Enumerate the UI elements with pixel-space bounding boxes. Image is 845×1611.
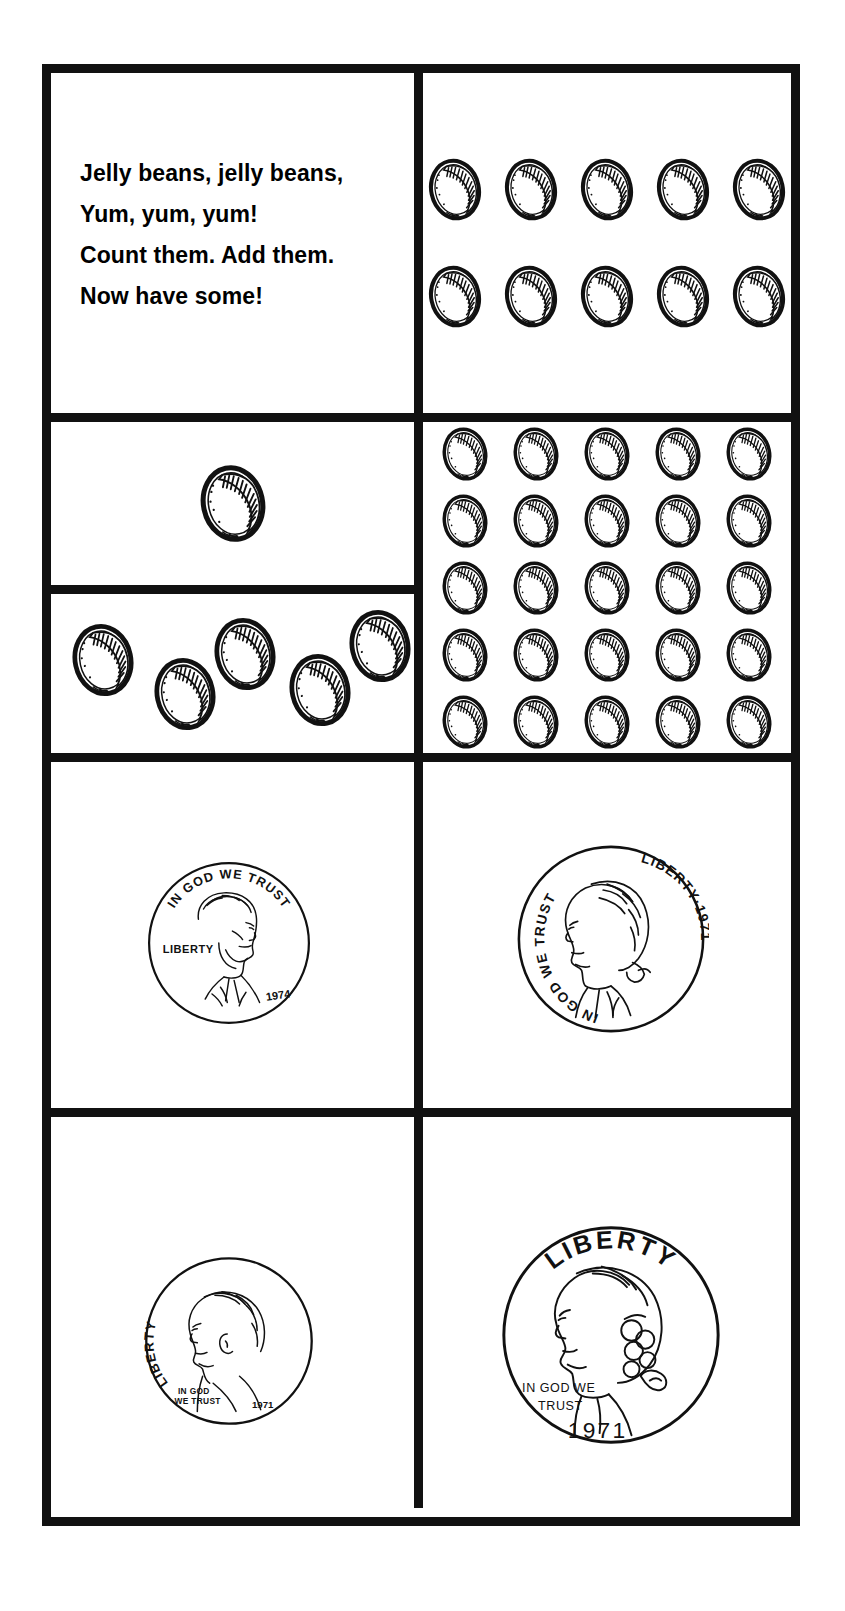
jelly-bean-row bbox=[440, 627, 774, 683]
poem-line-4: Now have some! bbox=[80, 276, 404, 317]
jelly-bean-icon bbox=[511, 694, 561, 750]
jelly-bean-row bbox=[426, 157, 788, 222]
nickel-coin: IN GOD WE TRUSTLIBERTY·1971 bbox=[513, 841, 709, 1037]
jelly-bean-item bbox=[346, 608, 414, 684]
jelly-bean-icon bbox=[440, 627, 490, 683]
dime-coin: LIBERTYIN GODWE TRUST1971 bbox=[141, 1253, 317, 1429]
jelly-bean-row bbox=[440, 694, 774, 750]
svg-text:IN GOD WE: IN GOD WE bbox=[522, 1381, 595, 1395]
jelly-bean-icon bbox=[724, 627, 774, 683]
jelly-bean-item bbox=[69, 622, 137, 698]
jelly-bean-icon bbox=[502, 264, 560, 329]
jelly-bean-row bbox=[440, 560, 774, 616]
jelly-bean-group-five bbox=[51, 594, 414, 753]
jelly-bean-icon bbox=[511, 426, 561, 482]
jelly-bean-row bbox=[440, 493, 774, 549]
row-penny-nickel: IN GOD WE TRUSTLIBERTY1974 IN GOD WE TRU… bbox=[51, 753, 791, 1108]
jelly-bean-group-twentyfive bbox=[423, 426, 791, 750]
jelly-bean-icon bbox=[582, 426, 632, 482]
cell-ten-jelly-beans bbox=[414, 73, 791, 413]
jelly-bean-icon bbox=[502, 157, 560, 222]
row-dime-quarter: LIBERTYIN GODWE TRUST1971 LIBERTYIN GOD … bbox=[51, 1108, 791, 1508]
jelly-bean-icon bbox=[578, 264, 636, 329]
nickel-wrap: IN GOD WE TRUSTLIBERTY·1971 bbox=[423, 762, 791, 1108]
jelly-bean-icon bbox=[653, 627, 703, 683]
poem-line-1: Jelly beans, jelly beans, bbox=[80, 153, 404, 194]
quarter-wrap: LIBERTYIN GOD WETRUST1971 bbox=[423, 1117, 791, 1508]
jelly-bean-group-ten bbox=[423, 157, 791, 329]
svg-text:WE TRUST: WE TRUST bbox=[174, 1396, 220, 1406]
cell-penny: IN GOD WE TRUSTLIBERTY1974 bbox=[51, 762, 414, 1108]
jelly-bean-icon bbox=[653, 426, 703, 482]
poem-line-2: Yum, yum, yum! bbox=[80, 194, 404, 235]
jelly-bean-icon bbox=[511, 627, 561, 683]
cell-one-jelly-bean bbox=[51, 422, 414, 585]
cell-five-jelly-beans bbox=[51, 585, 414, 753]
poem-line-3: Count them. Add them. bbox=[80, 235, 404, 276]
jelly-bean-icon bbox=[346, 608, 414, 684]
jelly-bean-icon bbox=[578, 157, 636, 222]
jelly-bean-icon bbox=[511, 560, 561, 616]
jelly-bean-icon bbox=[653, 694, 703, 750]
jelly-bean-icon bbox=[730, 264, 788, 329]
jelly-bean-icon bbox=[511, 493, 561, 549]
worksheet-frame: Jelly beans, jelly beans, Yum, yum, yum!… bbox=[42, 64, 800, 1526]
svg-text:1971: 1971 bbox=[568, 1416, 628, 1442]
jelly-bean-icon bbox=[724, 694, 774, 750]
jelly-bean-icon bbox=[151, 656, 219, 732]
quarter-coin: LIBERTYIN GOD WETRUST1971 bbox=[497, 1221, 725, 1449]
jelly-bean-row bbox=[426, 264, 788, 329]
jelly-bean-icon bbox=[582, 560, 632, 616]
jelly-bean-icon bbox=[197, 463, 269, 544]
jelly-bean-icon bbox=[440, 560, 490, 616]
jelly-bean-icon bbox=[582, 627, 632, 683]
jelly-bean-icon bbox=[724, 426, 774, 482]
jelly-bean-item bbox=[286, 652, 354, 728]
svg-text:LIBERTY: LIBERTY bbox=[162, 943, 213, 955]
cell-dime: LIBERTYIN GODWE TRUST1971 bbox=[51, 1117, 414, 1508]
cell-left-split bbox=[51, 422, 414, 753]
svg-text:TRUST: TRUST bbox=[538, 1399, 583, 1413]
jelly-bean-icon bbox=[654, 157, 712, 222]
jelly-bean-icon bbox=[653, 560, 703, 616]
cell-quarter: LIBERTYIN GOD WETRUST1971 bbox=[414, 1117, 791, 1508]
poem-block: Jelly beans, jelly beans, Yum, yum, yum!… bbox=[80, 153, 404, 317]
dime-wrap: LIBERTYIN GODWE TRUST1971 bbox=[51, 1117, 414, 1508]
nickel-coin-icon: IN GOD WE TRUSTLIBERTY·1971 bbox=[513, 841, 709, 1037]
jelly-bean-item bbox=[211, 616, 279, 692]
jelly-bean-icon bbox=[730, 157, 788, 222]
jelly-bean-row bbox=[440, 426, 774, 482]
jelly-bean-icon bbox=[724, 560, 774, 616]
penny-coin: IN GOD WE TRUSTLIBERTY1974 bbox=[144, 858, 314, 1028]
jelly-bean-icon bbox=[724, 493, 774, 549]
jelly-bean-icon bbox=[286, 652, 354, 728]
worksheet-page: Jelly beans, jelly beans, Yum, yum, yum!… bbox=[0, 0, 845, 1611]
quarter-coin-icon: LIBERTYIN GOD WETRUST1971 bbox=[497, 1221, 725, 1449]
jelly-bean-icon bbox=[440, 426, 490, 482]
jelly-bean-icon bbox=[211, 616, 279, 692]
jelly-bean-item bbox=[151, 656, 219, 732]
svg-text:IN GOD: IN GOD bbox=[177, 1385, 209, 1395]
cell-nickel: IN GOD WE TRUSTLIBERTY·1971 bbox=[414, 762, 791, 1108]
row-one-five-twentyfive bbox=[51, 413, 791, 753]
jelly-bean-icon bbox=[440, 694, 490, 750]
svg-text:1974: 1974 bbox=[265, 987, 292, 1002]
cell-poem: Jelly beans, jelly beans, Yum, yum, yum!… bbox=[51, 73, 414, 413]
jelly-bean-icon bbox=[654, 264, 712, 329]
row-poem-and-ten-beans: Jelly beans, jelly beans, Yum, yum, yum!… bbox=[51, 73, 791, 413]
jelly-bean-icon bbox=[582, 493, 632, 549]
jelly-bean-icon bbox=[69, 622, 137, 698]
svg-text:1971: 1971 bbox=[251, 1398, 273, 1409]
penny-wrap: IN GOD WE TRUSTLIBERTY1974 bbox=[51, 762, 414, 1108]
jelly-bean-icon bbox=[582, 694, 632, 750]
jelly-bean-icon bbox=[653, 493, 703, 549]
penny-coin-icon: IN GOD WE TRUSTLIBERTY1974 bbox=[144, 858, 314, 1028]
jelly-bean-icon bbox=[440, 493, 490, 549]
dime-coin-icon: LIBERTYIN GODWE TRUST1971 bbox=[141, 1253, 317, 1429]
jelly-bean-icon bbox=[426, 157, 484, 222]
jelly-bean-icon bbox=[426, 264, 484, 329]
jelly-bean-group-one bbox=[197, 463, 269, 544]
cell-twentyfive-jelly-beans bbox=[414, 422, 791, 753]
